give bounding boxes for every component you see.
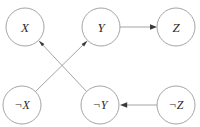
node-not-z-label: ¬Z bbox=[169, 98, 184, 112]
node-not-x-label: ¬X bbox=[14, 98, 30, 112]
node-not-y[interactable]: ¬Y bbox=[81, 86, 119, 124]
node-y[interactable]: Y bbox=[82, 8, 120, 46]
node-z-label: Z bbox=[172, 20, 180, 35]
graph-canvas: X Y Z ¬X ¬Y ¬Z bbox=[0, 0, 200, 127]
implication-graph-diagram: X Y Z ¬X ¬Y ¬Z bbox=[0, 0, 200, 127]
arrowhead-into-z bbox=[150, 24, 157, 30]
node-x-label: X bbox=[20, 20, 30, 35]
edge-not-x-to-y-line bbox=[35, 42, 86, 92]
node-z[interactable]: Z bbox=[157, 8, 195, 46]
edge-not-z-to-not-y bbox=[120, 102, 157, 108]
arrowhead-into-not-y bbox=[120, 102, 127, 108]
edge-not-y-to-x-line bbox=[40, 42, 87, 92]
node-x[interactable]: X bbox=[6, 8, 44, 46]
node-not-x[interactable]: ¬X bbox=[3, 86, 41, 124]
node-not-y-label: ¬Y bbox=[93, 98, 109, 112]
node-not-z[interactable]: ¬Z bbox=[157, 86, 195, 124]
edge-y-to-z bbox=[120, 24, 157, 30]
